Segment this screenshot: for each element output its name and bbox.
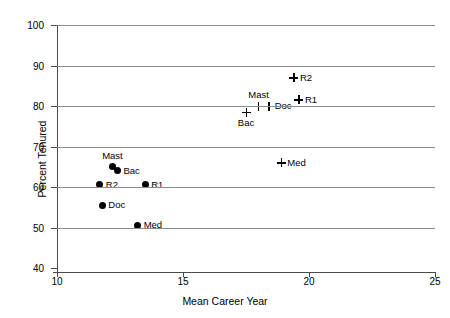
point-label-filled-circle-mast: Mast: [102, 150, 123, 160]
gridline-y-100: [57, 25, 435, 26]
plot-area: MastBacR2R1DocMedR2R1MastDocBacMed: [57, 25, 435, 268]
data-point-filled-circle-bac: [114, 167, 121, 174]
gridline-y-90: [57, 66, 435, 67]
y-tick-label-100: 100: [0, 20, 44, 31]
point-label-plus-bac: Bac: [238, 118, 254, 128]
point-label-filled-circle-doc: Doc: [108, 200, 125, 210]
gridline-y-50: [57, 228, 435, 229]
point-label-plus-r1: R1: [305, 95, 317, 105]
scatter-plot-figure: 405060708090100 10152025 MastBacR2R1DocM…: [0, 0, 450, 318]
point-label-plus-med: Med: [287, 158, 305, 168]
gridline-y-60: [57, 187, 435, 188]
y-tick-label-90: 90: [0, 60, 44, 71]
y-tick-label-50: 50: [0, 222, 44, 233]
point-label-filled-circle-r1: R1: [151, 180, 163, 190]
point-label-filled-circle-med: Med: [144, 221, 162, 231]
data-point-plus-r1: [294, 95, 303, 104]
x-tick-label-10: 10: [51, 276, 62, 287]
gridline-y-70: [57, 147, 435, 148]
data-point-plus-bac: [242, 108, 251, 117]
point-label-plus-r2: R2: [300, 73, 312, 83]
y-tick-label-80: 80: [0, 101, 44, 112]
y-tick-mark-40: [51, 268, 57, 269]
point-label-plus-mast: Mast: [248, 90, 269, 100]
data-point-plus-med: [277, 158, 286, 167]
data-point-plus-r2: [289, 73, 298, 82]
x-tick-label-20: 20: [303, 276, 314, 287]
y-axis-label: Percent Tenured: [36, 121, 48, 198]
x-tick-label-25: 25: [429, 276, 440, 287]
gridline-y-80: [57, 106, 435, 107]
x-axis-label: Mean Career Year: [0, 295, 450, 307]
point-label-filled-circle-r2: R2: [106, 180, 118, 190]
x-axis-line: [53, 272, 435, 273]
point-label-filled-circle-bac: Bac: [123, 166, 139, 176]
x-tick-label-15: 15: [177, 276, 188, 287]
data-point-filled-circle-doc: [99, 202, 106, 209]
y-tick-label-40: 40: [0, 263, 44, 274]
